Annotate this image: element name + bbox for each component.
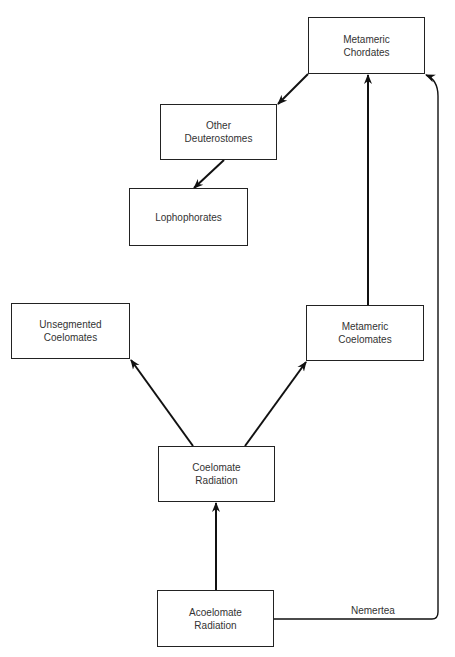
node-label: Metameric Coelomates [338,320,391,346]
edge-deuterostomes-to-lophophorates [194,160,224,188]
edge-chordates-to-deuterostomes [278,74,308,104]
node-lophophorates: Lophophorates [129,188,248,246]
node-acoelomate-radiation: Acoelomate Radiation [157,590,274,647]
node-label: Acoelomate Radiation [189,606,242,632]
edge-label-nemertea: Nemertea [351,605,395,616]
node-coelomate-radiation: Coelomate Radiation [158,446,275,502]
node-label: Coelomate Radiation [192,461,240,487]
node-label: Lophophorates [155,211,222,224]
edge-coelomate-to-metameric-coelomates [245,362,306,446]
node-label: Other Deuterostomes [185,119,253,145]
node-label: Unsegmented Coelomates [39,318,101,344]
edge-coelomate-to-unsegmented [131,360,193,446]
node-metameric-chordates: Metameric Chordates [308,17,425,74]
node-other-deuterostomes: Other Deuterostomes [160,104,277,160]
node-metameric-coelomates: Metameric Coelomates [306,305,424,361]
node-unsegmented-coelomates: Unsegmented Coelomates [11,303,130,359]
node-label: Metameric Chordates [343,33,390,59]
